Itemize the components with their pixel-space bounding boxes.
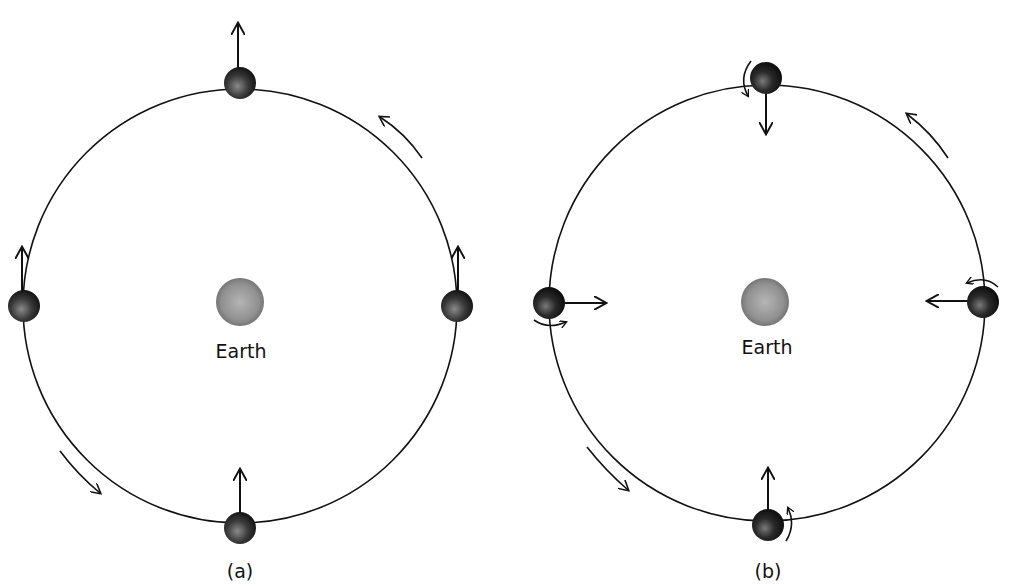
rotation-arrow-icon [744, 61, 751, 96]
moon-top [744, 61, 782, 133]
moon-bottom [224, 470, 256, 544]
panel-b: Earth (b) [533, 61, 999, 582]
moon-top [224, 24, 256, 99]
panel-a: Earth (a) [8, 24, 473, 582]
moon-bottom [752, 469, 792, 541]
orbit-direction-arrow-icon [380, 117, 422, 158]
moon-right [928, 280, 999, 318]
orbit-diagram: Earth (a) Earth [0, 0, 1012, 586]
rotation-arrow-icon [786, 508, 792, 541]
earth-sphere [216, 278, 264, 326]
moon-right [441, 248, 473, 322]
rotation-arrow-icon [967, 280, 998, 287]
moon-left [533, 287, 605, 326]
panel-caption: (b) [755, 560, 782, 582]
orbit-direction-arrow-icon [907, 114, 948, 158]
orbit-direction-arrow-icon [60, 451, 100, 493]
panel-caption: (a) [227, 560, 253, 582]
earth-label: Earth [742, 336, 793, 358]
earth-label: Earth [216, 340, 267, 362]
orbit-direction-arrow-icon [587, 447, 628, 490]
earth-sphere [741, 278, 789, 326]
